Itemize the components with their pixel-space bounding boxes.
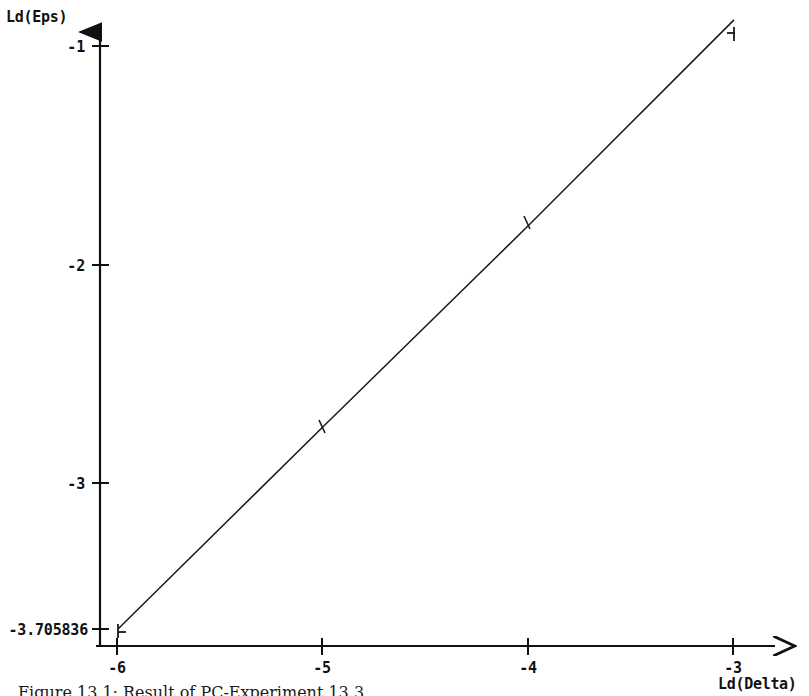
plot-canvas xyxy=(0,0,809,696)
y-tick-label-3: -3 xyxy=(10,475,85,493)
data-point-markers xyxy=(118,27,735,638)
x-tick-label-2: -5 xyxy=(305,659,339,677)
x-tick-label-1: -6 xyxy=(100,659,134,677)
data-series-line xyxy=(118,20,734,629)
figure-caption: Figure 13.1: Result of PC-Experiment 13.… xyxy=(18,684,364,696)
y-axis-title: Ld(Eps) xyxy=(6,8,67,26)
x-axis-title: Ld(Delta) xyxy=(718,675,797,693)
x-tick-label-3: -4 xyxy=(511,659,545,677)
x-tick-label-4: -3 xyxy=(716,659,750,677)
y-tick-label-2: -2 xyxy=(10,257,85,275)
y-tick-label-1: -1 xyxy=(10,38,85,56)
y-tick-label-min: -3.705836 xyxy=(0,621,88,639)
figure-container: Ld(Eps) Ld(Delta) -1 -2 -3 -3.705836 -6 … xyxy=(0,0,809,696)
